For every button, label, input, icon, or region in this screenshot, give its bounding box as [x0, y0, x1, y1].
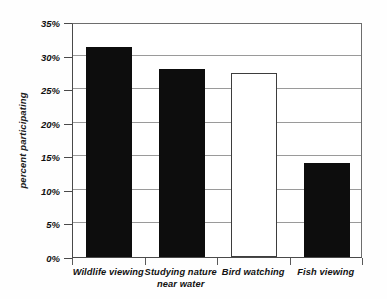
y-axis-tick-mark — [64, 191, 72, 192]
y-axis-tick-mark — [64, 157, 72, 158]
y-axis-tick-mark — [64, 57, 72, 58]
y-axis-tick-label: 30% — [18, 51, 60, 62]
x-axis-category-label: Studying naturenear water — [145, 267, 218, 290]
bar[interactable] — [231, 73, 277, 257]
x-axis-label-line: Fish viewing — [290, 267, 363, 279]
bar-chart-figure: percent participating 0%5%10%15%20%25%30… — [0, 0, 387, 299]
x-axis-label-line: Studying nature — [145, 267, 218, 279]
y-axis-tick-mark — [64, 23, 72, 24]
y-axis-tick-label: 25% — [18, 85, 60, 96]
x-axis-category-label: Fish viewing — [290, 267, 363, 279]
y-axis-tick-label: 35% — [18, 18, 60, 29]
y-axis-tick-label: 10% — [18, 185, 60, 196]
x-axis-category-label: Bird watching — [217, 267, 290, 279]
y-axis-tick-mark — [64, 258, 72, 259]
x-axis-label-line: Bird watching — [217, 267, 290, 279]
bar-slot — [73, 24, 146, 257]
x-axis-label-line: near water — [145, 279, 218, 291]
y-axis-tick-label: 15% — [18, 152, 60, 163]
bar-slot — [146, 24, 219, 257]
y-axis-tick-label: 20% — [18, 118, 60, 129]
bar[interactable] — [86, 47, 132, 257]
plot-area — [72, 23, 362, 258]
y-axis-tick-label: 5% — [18, 219, 60, 230]
y-axis-tick-label: 0% — [18, 253, 60, 264]
bar-slot — [218, 24, 291, 257]
x-axis-separator — [290, 258, 291, 265]
bar-slot — [291, 24, 364, 257]
x-axis-separator — [217, 258, 218, 265]
y-axis-tick-mark — [64, 124, 72, 125]
bar[interactable] — [304, 163, 350, 257]
x-axis-separator — [145, 258, 146, 265]
y-axis-tick-mark — [64, 90, 72, 91]
x-axis-separator — [362, 258, 363, 265]
x-axis-label-line: Wildlife viewing — [72, 267, 145, 279]
x-axis-separator — [72, 258, 73, 265]
bar-series — [73, 24, 361, 257]
y-axis-tick-mark — [64, 224, 72, 225]
x-axis-category-label: Wildlife viewing — [72, 267, 145, 279]
bar[interactable] — [159, 69, 205, 257]
